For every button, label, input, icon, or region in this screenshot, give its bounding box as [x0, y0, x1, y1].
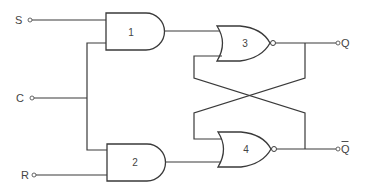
input-r-terminal	[32, 173, 36, 177]
nor-gate-4-bubble	[272, 147, 277, 152]
wire-c-bus	[87, 43, 107, 150]
nor-gate-3-bubble	[271, 41, 276, 46]
output-q: Q	[276, 37, 350, 49]
input-c-label: C	[16, 92, 24, 104]
nor-gate-3: 3	[217, 26, 276, 61]
and-gate-1: 1	[106, 13, 165, 50]
output-qbar-terminal	[336, 147, 340, 151]
input-s: S	[15, 14, 106, 26]
output-q-bar: Q	[277, 142, 350, 156]
nor-gate-4: 4	[218, 132, 277, 167]
and-gate-1-shape	[106, 13, 165, 50]
gate-1-number: 1	[128, 27, 134, 38]
and-gate-2: 2	[107, 144, 166, 181]
input-s-label: S	[15, 14, 22, 26]
gate-2-number: 2	[132, 157, 138, 168]
input-c-terminal	[30, 96, 34, 100]
output-q-label: Q	[341, 37, 350, 49]
output-qbar-label: Q	[341, 143, 350, 155]
gate-3-number: 3	[242, 38, 248, 49]
gate-4-number: 4	[243, 144, 249, 155]
input-s-terminal	[28, 18, 32, 22]
circuit-diagram: S C R 1 2 3 4 Q	[0, 0, 369, 195]
input-r-label: R	[21, 169, 29, 181]
output-q-terminal	[336, 41, 340, 45]
input-r: R	[21, 169, 107, 181]
input-c: C	[16, 43, 107, 150]
